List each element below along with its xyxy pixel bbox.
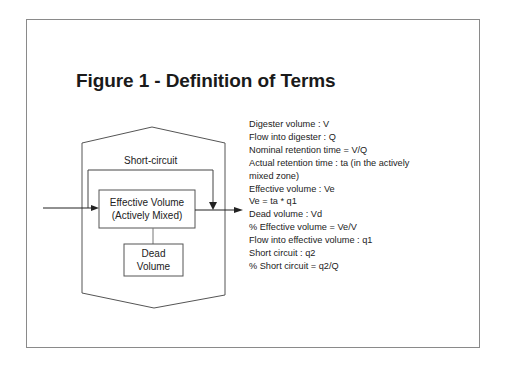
effective-volume-label: Effective Volume (Actively Mixed) <box>99 196 195 222</box>
inflow-arrowhead-icon <box>91 205 99 211</box>
term-item: Nominal retention time = V/Q <box>249 144 424 157</box>
term-item: Flow into digester : Q <box>249 131 424 144</box>
dead-volume-line1: Dead <box>124 247 183 260</box>
term-item: Effective volume : Ve <box>249 183 424 196</box>
short-circuit-arrowhead-icon <box>209 202 217 210</box>
effective-volume-line1: Effective Volume <box>99 196 195 209</box>
effective-volume-line2: (Actively Mixed) <box>99 209 195 222</box>
term-item: Digester volume : V <box>249 118 424 131</box>
term-item: % Short circuit = q2/Q <box>249 260 424 273</box>
dead-volume-label: Dead Volume <box>124 247 183 273</box>
term-item: Dead volume : Vd <box>249 208 424 221</box>
terms-list: Digester volume : V Flow into digester :… <box>249 118 424 273</box>
term-item: Short circuit : q2 <box>249 247 424 260</box>
dead-volume-line2: Volume <box>124 260 183 273</box>
term-item: % Effective volume = Ve/V <box>249 221 424 234</box>
outflow-arrowhead-icon <box>234 207 243 213</box>
short-circuit-label: Short-circuit <box>124 154 177 167</box>
term-item: Ve = ta * q1 <box>249 195 424 208</box>
term-item: Flow into effective volume : q1 <box>249 234 424 247</box>
term-item: Actual retention time : ta (in the activ… <box>249 157 424 183</box>
